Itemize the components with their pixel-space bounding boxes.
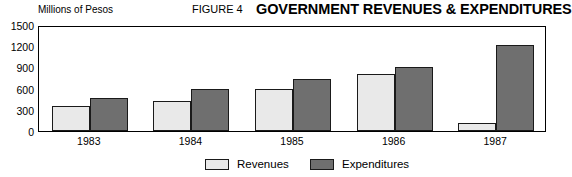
x-tick-label-1985: 1985 [280,135,303,147]
y-tick-label: 1500 [0,21,34,32]
y-tick-label: 900 [0,63,34,74]
y-tick-label: 1200 [0,42,34,53]
bar-group-1986 [357,27,433,131]
x-tick-label-1987: 1987 [484,135,507,147]
bar-1984-revenues[interactable] [153,101,191,131]
plot-area [38,26,546,132]
y-tick-label: 300 [0,105,34,116]
bar-1987-revenues[interactable] [458,123,496,131]
legend-swatch-revenues [205,159,229,170]
bar-1986-revenues[interactable] [357,74,395,131]
y-axis: 030060090012001500 [0,26,34,132]
chart-legend: RevenuesExpenditures [0,155,552,175]
bar-1984-expenditures[interactable] [191,89,229,131]
bar-group-1983 [52,27,128,131]
y-tick-label: 600 [0,84,34,95]
y-axis-unit-label: Millions of Pesos [38,4,113,16]
x-tick-label-1986: 1986 [382,135,405,147]
legend-entry-revenues[interactable]: Revenues [205,155,289,173]
legend-swatch-expenditures [310,159,334,170]
legend-label-expenditures: Expenditures [342,158,409,171]
bar-1983-expenditures[interactable] [90,98,128,131]
bar-1986-expenditures[interactable] [395,67,433,131]
bar-group-1984 [153,27,229,131]
chart-header: Millions of Pesos FIGURE 4 GOVERNMENT RE… [0,0,552,20]
bar-1987-expenditures[interactable] [496,45,534,131]
x-tick-label-1984: 1984 [179,135,202,147]
bar-1983-revenues[interactable] [52,106,90,131]
legend-entry-expenditures[interactable]: Expenditures [310,155,409,173]
figure-number-label: FIGURE 4 [192,3,243,16]
x-axis: 19831984198519861987 [38,133,546,149]
bar-group-1985 [255,27,331,131]
page-title: GOVERNMENT REVENUES & EXPENDITURES [256,1,572,18]
bar-group-1987 [458,27,534,131]
x-tick-label-1983: 1983 [77,135,100,147]
legend-label-revenues: Revenues [237,158,289,171]
bar-1985-expenditures[interactable] [293,79,331,131]
bars-container [39,27,545,131]
bar-1985-revenues[interactable] [255,89,293,131]
y-tick-label: 0 [0,127,34,138]
